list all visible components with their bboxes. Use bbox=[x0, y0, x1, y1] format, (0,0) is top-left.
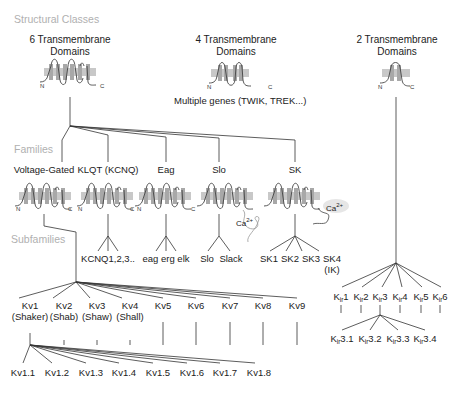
kv1-member: Kv1.5 bbox=[143, 367, 173, 378]
kir-subfamily: Kir4 bbox=[389, 291, 411, 305]
channel-icon-slo bbox=[197, 183, 253, 209]
channel-icon-voltage-gated bbox=[15, 183, 71, 209]
c-terminal-label-vg: C bbox=[68, 206, 72, 212]
n-terminal-label-2tm: N bbox=[378, 84, 382, 90]
channel-icon-4tm bbox=[209, 63, 251, 87]
class-6tm-title: 6 Transmembrane Domains bbox=[20, 34, 120, 58]
edge-to-voltage-gated bbox=[62, 126, 70, 140]
class-4tm-line1: 4 Transmembrane bbox=[186, 34, 286, 46]
sk-member: SK4 bbox=[321, 253, 343, 264]
family-eag: Eag bbox=[146, 164, 186, 175]
n-terminal-label-eag: N bbox=[137, 206, 141, 212]
slo-member-slack: Slack bbox=[218, 253, 244, 264]
family-slo: Slo bbox=[199, 164, 239, 175]
class-4tm-note: Multiple genes (TWIK, TREK...) bbox=[174, 95, 298, 106]
kv-subfamily: Kv5 bbox=[148, 300, 178, 311]
kir3-member: Kir3.2 bbox=[356, 333, 384, 347]
edge-to-sk bbox=[70, 126, 295, 140]
kv-subfamily: Kv3(Shaw) bbox=[79, 300, 115, 322]
kv-subfamily: Kv4(Shall) bbox=[112, 300, 148, 322]
c-terminal-label-2tm: C bbox=[410, 84, 414, 90]
family-sk: SK bbox=[275, 164, 315, 175]
kv1-member: Kv1.4 bbox=[109, 367, 139, 378]
kv-subfamily: Kv2(Shab) bbox=[46, 300, 82, 322]
c-terminal-label-eag: C bbox=[191, 206, 195, 212]
section-families: Families bbox=[14, 143, 53, 155]
slo-member-slo: Slo bbox=[196, 253, 218, 264]
kir3-member: Kir3.1 bbox=[328, 333, 356, 347]
channel-icon-2tm bbox=[380, 63, 410, 87]
sk4-note: (IK) bbox=[321, 264, 343, 275]
kir-subfamily: Kir1 bbox=[330, 291, 352, 305]
family-klqt: KLQT (KCNQ) bbox=[76, 164, 140, 175]
klqt-members: KCNQ1,2,3.. bbox=[78, 253, 138, 264]
channel-icon-sk bbox=[264, 183, 320, 209]
kir3-member: Kir3.3 bbox=[384, 333, 412, 347]
kir-subfamily: Kir6 bbox=[429, 291, 451, 305]
edge-vg-to-kv bbox=[44, 214, 76, 282]
sk-calcium-label: Ca2+ bbox=[326, 200, 343, 214]
kv1-member: Kv1.8 bbox=[244, 367, 274, 378]
c-terminal-label-6tm: C bbox=[100, 83, 104, 89]
kir-subfamily: Kir3 bbox=[369, 291, 391, 305]
family-voltage-gated: Voltage-Gated bbox=[12, 164, 76, 175]
sk-member: SK3 bbox=[300, 253, 322, 264]
eag-members: eag erg elk bbox=[140, 253, 192, 264]
section-subfamilies: Subfamilies bbox=[11, 233, 65, 245]
kv1-member: Kv1.2 bbox=[42, 367, 72, 378]
class-2tm-title: 2 Transmembrane Domains bbox=[347, 34, 447, 58]
channel-icon-eag bbox=[135, 183, 191, 209]
sk-member: SK1 bbox=[258, 253, 280, 264]
n-terminal-label-vg: N bbox=[16, 206, 20, 212]
c-terminal-label-4tm: C bbox=[268, 84, 272, 90]
sk-member: SK2 bbox=[279, 253, 301, 264]
kv1-member: Kv1.6 bbox=[177, 367, 207, 378]
kv-subfamily: Kv9 bbox=[282, 300, 312, 311]
class-4tm-title: 4 Transmembrane Domains bbox=[186, 34, 286, 58]
kv1-member: Kv1.1 bbox=[8, 367, 38, 378]
edge-to-eag bbox=[70, 126, 166, 137]
class-2tm-line1: 2 Transmembrane bbox=[347, 34, 447, 46]
class-4tm-line2: Domains bbox=[186, 46, 286, 58]
kv1-member: Kv1.7 bbox=[210, 367, 240, 378]
edge-to-slo bbox=[70, 126, 219, 138]
class-6tm-line2: Domains bbox=[20, 46, 120, 58]
kv1-member: Kv1.3 bbox=[76, 367, 106, 378]
kv-subfamily: Kv6 bbox=[181, 300, 211, 311]
kir3-member: Kir3.4 bbox=[411, 333, 439, 347]
class-6tm-line1: 6 Transmembrane bbox=[20, 34, 120, 46]
class-2tm-line2: Domains bbox=[347, 46, 447, 58]
section-structural-classes: Structural Classes bbox=[14, 13, 99, 25]
kv-subfamily: Kv7 bbox=[215, 300, 245, 311]
slo-calcium-label: Ca2+ bbox=[236, 215, 253, 229]
kv-subfamily: Kv1(Shaker) bbox=[10, 300, 50, 322]
kv-subfamily: Kv8 bbox=[248, 300, 278, 311]
n-terminal-label-4tm: N bbox=[207, 84, 211, 90]
n-terminal-label-klqt: N bbox=[78, 206, 82, 212]
n-terminal-label-6tm: N bbox=[40, 83, 44, 89]
channel-icon-6tm bbox=[40, 59, 96, 85]
channel-icon-klqt bbox=[77, 183, 133, 209]
c-terminal-label-klqt: C bbox=[130, 206, 134, 212]
